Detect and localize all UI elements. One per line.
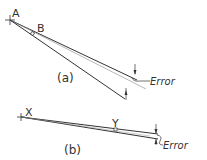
error-label-b: Error xyxy=(163,140,189,151)
caption-b: (b) xyxy=(64,143,81,157)
true-line xyxy=(10,20,146,89)
error-dimension-b xyxy=(155,124,164,145)
lower-line-b xyxy=(21,117,158,139)
caption-a: (a) xyxy=(57,71,74,85)
point-a-label: A xyxy=(12,7,20,20)
error-dimension-a xyxy=(125,64,151,100)
upper-line-b xyxy=(21,117,158,134)
point-x-label: X xyxy=(25,106,33,119)
lower-line xyxy=(10,20,125,99)
diagram-part-a: A B Error (a) xyxy=(5,7,176,100)
error-diagram: A B Error (a) X Y xyxy=(0,0,207,160)
diagram-part-b: X Y Error (b) xyxy=(17,106,189,157)
error-label-a: Error xyxy=(150,76,176,87)
true-line-b xyxy=(21,117,150,136)
point-y-marker xyxy=(114,128,117,131)
